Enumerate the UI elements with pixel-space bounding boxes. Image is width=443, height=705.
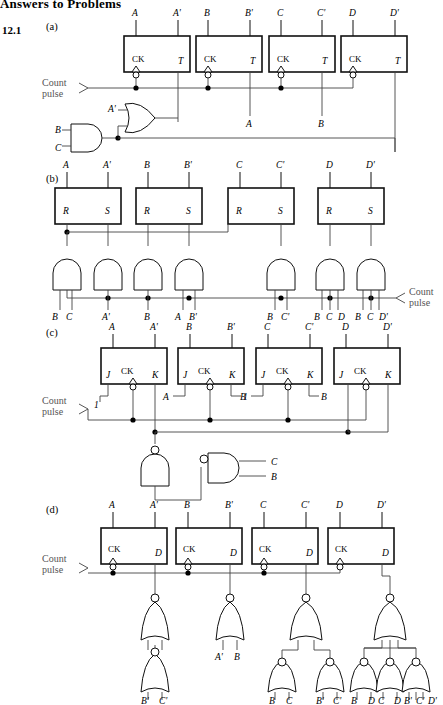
svg-text:C: C — [378, 696, 385, 705]
svg-text:CK: CK — [335, 544, 348, 554]
nor-gate-d1b: B' C' — [141, 648, 169, 705]
svg-text:CK: CK — [183, 544, 196, 554]
svg-text:D: D — [229, 548, 237, 558]
svg-text:D': D' — [427, 696, 438, 705]
svg-text:A': A' — [214, 652, 224, 662]
svg-text:C': C' — [416, 696, 425, 705]
svg-text:B: B — [351, 696, 357, 705]
svg-text:D: D — [381, 548, 389, 558]
svg-text:B: B — [269, 696, 275, 705]
nor-gate-d3b: B' C' — [316, 658, 344, 705]
part-d-outputs: A A' B B' C C' D D' — [108, 500, 387, 528]
svg-text:D: D — [393, 696, 401, 705]
part-d-flipflops: CK D CK D CK D CK D — [101, 528, 394, 570]
svg-text:C': C' — [333, 696, 342, 705]
svg-text:D: D — [154, 548, 162, 558]
nor-gate-d4 — [364, 594, 416, 662]
nor-gate-d2: A' B — [214, 594, 244, 662]
svg-text:pulse: pulse — [42, 564, 64, 575]
svg-text:C: C — [260, 500, 267, 510]
nor-gate-d4b: C D — [376, 658, 404, 705]
textbook-answer-page: Answers to Problems 12.1 (a) A A' B B' C… — [0, 0, 443, 705]
svg-text:A': A' — [149, 500, 159, 510]
svg-text:D: D — [335, 500, 343, 510]
svg-text:B': B' — [404, 696, 413, 705]
nor-gate-d1 — [141, 594, 169, 652]
part-d-diagram: (d) A A' B B' C C' D D' CK D CK — [0, 0, 443, 705]
svg-text:B': B' — [225, 500, 234, 510]
svg-text:CK: CK — [259, 544, 272, 554]
svg-text:A: A — [108, 500, 115, 510]
svg-text:C': C' — [159, 696, 168, 705]
nor-gate-d3a: B C — [268, 658, 296, 705]
svg-text:D: D — [305, 548, 313, 558]
svg-text:C: C — [286, 696, 293, 705]
svg-text:D: D — [367, 696, 375, 705]
svg-text:B: B — [234, 652, 240, 662]
svg-text:B': B' — [141, 696, 150, 705]
svg-text:C': C' — [301, 500, 310, 510]
nor-gate-d4a: B D — [350, 658, 378, 705]
svg-text:Count: Count — [42, 553, 67, 564]
part-d-label: (d) — [46, 504, 59, 516]
svg-text:CK: CK — [108, 544, 121, 554]
svg-text:B: B — [184, 500, 190, 510]
svg-text:B': B' — [316, 696, 325, 705]
svg-text:D': D' — [376, 500, 387, 510]
nor-gate-d4c: B' C' D' — [402, 658, 438, 705]
nor-gate-d3 — [282, 594, 330, 662]
